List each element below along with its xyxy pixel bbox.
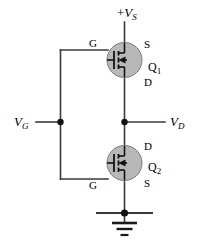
gate-voltage-subscript: G: [22, 121, 29, 131]
junction-dot-ground-node: [121, 209, 128, 216]
transistor-q1[interactable]: [107, 43, 142, 78]
q2-subscript: 2: [157, 166, 162, 176]
q1-source-terminal-label: S: [144, 39, 150, 50]
q2-gate-terminal-label: G: [89, 180, 97, 191]
supply-subscript: S: [132, 12, 137, 22]
cmos-inverter-figure: +VS VG VD Q1 Q2 G S D D S G: [0, 0, 202, 245]
drain-voltage-subscript: D: [178, 121, 185, 131]
supply-voltage-label: +VS: [117, 6, 137, 22]
q1-drain-terminal-label: D: [144, 77, 152, 88]
drain-voltage-symbol: V: [170, 114, 178, 129]
q2-symbol: Q: [148, 160, 157, 174]
drain-voltage-label: VD: [170, 115, 184, 131]
gate-voltage-symbol: V: [14, 114, 22, 129]
q1-symbol: Q: [148, 60, 157, 74]
q1-device-label: Q1: [148, 61, 161, 76]
transistor-q2[interactable]: [107, 146, 142, 181]
q2-source-terminal-label: S: [144, 178, 150, 189]
junction-dot-gate-node: [57, 119, 63, 125]
junction-dot-output-node: [121, 119, 127, 125]
q2-device-label: Q2: [148, 161, 161, 176]
q1-subscript: 1: [157, 66, 162, 76]
q1-gate-terminal-label: G: [89, 38, 97, 49]
gate-voltage-label: VG: [14, 115, 28, 131]
q2-drain-terminal-label: D: [144, 141, 152, 152]
